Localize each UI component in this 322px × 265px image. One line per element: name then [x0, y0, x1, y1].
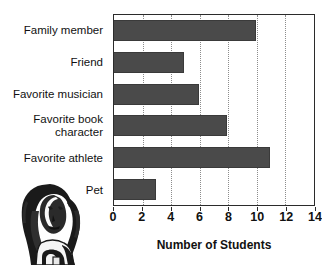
bar-row — [114, 110, 314, 142]
category-label-line: Favorite book — [33, 113, 103, 126]
bar-favorite-book-character — [113, 115, 227, 136]
category-label-favorite-athlete: Favorite athlete — [0, 142, 108, 174]
x-axis-title: Number of Students — [113, 238, 315, 252]
gridline — [314, 15, 315, 205]
x-tick-label: 12 — [279, 210, 293, 224]
x-tick-label: 8 — [225, 210, 232, 224]
person-engraving-illustration — [12, 181, 90, 265]
category-label-line: character — [33, 126, 103, 139]
x-tick-label: 4 — [167, 210, 174, 224]
plot-area — [113, 14, 315, 206]
bar-favorite-musician — [113, 84, 199, 105]
bar-series — [114, 15, 314, 205]
bar-family-member — [113, 20, 256, 41]
bar-row — [114, 78, 314, 110]
category-label-line: Favorite athlete — [24, 152, 103, 165]
bar-row — [114, 142, 314, 174]
category-axis-labels: Family member Friend Favorite musician F… — [0, 14, 108, 206]
category-label-line: Friend — [70, 56, 103, 69]
x-tick-label: 2 — [138, 210, 145, 224]
x-axis-ticks: 02468101214 — [113, 207, 315, 225]
category-label-family-member: Family member — [0, 14, 108, 46]
bar-row — [114, 15, 314, 47]
category-label-favorite-book-character: Favorite book character — [0, 110, 108, 142]
category-label-line: Family member — [24, 24, 103, 37]
bar-row — [114, 47, 314, 79]
x-tick-label: 14 — [308, 210, 322, 224]
x-tick-label: 0 — [110, 210, 117, 224]
x-tick-label: 6 — [196, 210, 203, 224]
category-label-friend: Friend — [0, 46, 108, 78]
bar-row — [114, 173, 314, 205]
bar-pet — [113, 179, 156, 200]
category-label-line: Favorite musician — [13, 88, 103, 101]
x-tick-label: 10 — [250, 210, 264, 224]
bar-favorite-athlete — [113, 147, 270, 168]
bar-friend — [113, 52, 184, 73]
category-label-favorite-musician: Favorite musician — [0, 78, 108, 110]
